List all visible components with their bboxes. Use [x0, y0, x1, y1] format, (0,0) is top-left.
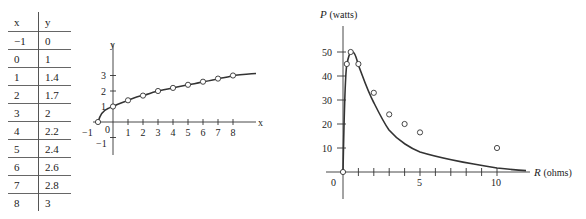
x-tick-label: 3 [156, 127, 161, 138]
y-tick-label: 20 [322, 119, 332, 130]
x-tick-label: 2 [141, 127, 146, 138]
y-tick-label: 40 [322, 71, 332, 82]
x-tick-label: 10 [491, 177, 501, 188]
y-tick-label: 10 [322, 143, 332, 154]
x-tick-label: 0 [331, 177, 336, 188]
y-axis-label: y [110, 39, 115, 50]
x-tick-label: 0 [105, 124, 110, 135]
y-tick-label: 1 [101, 101, 106, 112]
x-tick-label: 7 [216, 127, 221, 138]
power-curve [343, 52, 526, 172]
data-markers [95, 73, 235, 125]
x-tick-label: −1 [82, 127, 93, 138]
y-tick-label: 50 [322, 47, 332, 58]
x-axis-label: x [258, 117, 263, 128]
x-tick-label: 1 [126, 127, 131, 138]
data-markers [340, 49, 499, 174]
left-chart [93, 44, 256, 155]
right-chart-labels: P (watts) R (ohms) 50 40 30 20 10 0 5 10 [319, 8, 572, 188]
x-tick-label: 8 [231, 127, 236, 138]
y-axis-label: P (watts) [319, 8, 357, 21]
x-tick-label: 5 [186, 127, 191, 138]
x-tick-label: 4 [171, 127, 176, 138]
left-chart-labels: y x −1 0 1 2 3 4 5 6 7 8 3 2 1 −1 [82, 39, 263, 149]
sqrt-curve [98, 74, 256, 123]
y-tick-label: 30 [322, 95, 332, 106]
x-tick-label: 5 [417, 177, 422, 188]
x-tick-label: 6 [201, 127, 206, 138]
charts-canvas: y x −1 0 1 2 3 4 5 6 7 8 3 2 1 −1 [0, 0, 586, 219]
right-chart [326, 26, 530, 199]
x-axis-label: R (ohms) [533, 166, 572, 179]
y-tick-label: 3 [101, 70, 106, 81]
y-tick-label: −1 [96, 138, 107, 149]
y-tick-label: 2 [101, 86, 106, 97]
